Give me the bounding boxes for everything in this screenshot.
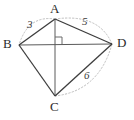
vertex-label-b: B [3, 37, 12, 50]
geometry-canvas [0, 0, 134, 120]
edge-bc [19, 45, 55, 96]
vertex-label-d: D [117, 36, 126, 49]
side-length-label-ad: 5 [82, 16, 88, 27]
vertex-label-a: A [50, 2, 59, 15]
geometry-figure: A B C D 3 5 6 [0, 0, 134, 120]
diagonal-bd [19, 44, 112, 45]
side-length-label-ab: 3 [27, 19, 33, 30]
vertex-label-c: C [50, 100, 59, 113]
right-angle-icon [55, 37, 62, 44]
side-length-label-cd: 6 [84, 70, 90, 81]
edge-group [19, 19, 112, 96]
